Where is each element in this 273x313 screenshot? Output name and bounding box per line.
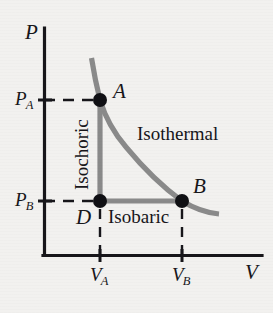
x-tick-va-base: V bbox=[90, 264, 102, 285]
process-label-isobaric: Isobaric bbox=[108, 207, 169, 226]
point-marker-d bbox=[93, 194, 107, 208]
x-tick-vb-subscript: B bbox=[183, 274, 191, 288]
point-marker-a bbox=[93, 93, 107, 107]
point-label-d: D bbox=[76, 207, 91, 228]
point-label-b: B bbox=[193, 176, 206, 197]
x-tick-va-subscript: A bbox=[101, 274, 109, 288]
y-tick-pa-subscript: A bbox=[26, 98, 34, 112]
y-axis-label: P bbox=[25, 22, 38, 43]
state-points bbox=[93, 93, 189, 208]
process-label-isochoric: Isochoric bbox=[72, 119, 91, 190]
x-tick-label-vb: VB bbox=[172, 265, 191, 284]
x-axis-label: V bbox=[245, 262, 258, 283]
y-tick-label-pb: PB bbox=[15, 190, 34, 209]
y-tick-pa-base: P bbox=[15, 88, 27, 109]
point-label-a: A bbox=[113, 81, 126, 102]
pv-diagram-figure: P V PA PB VA VB A B D Isothermal Isochor… bbox=[0, 0, 273, 313]
x-tick-label-va: VA bbox=[90, 265, 109, 284]
y-tick-pb-base: P bbox=[15, 189, 27, 210]
plot-canvas bbox=[0, 0, 273, 313]
x-tick-vb-base: V bbox=[172, 264, 184, 285]
y-tick-label-pa: PA bbox=[15, 89, 34, 108]
y-tick-pb-subscript: B bbox=[26, 199, 34, 213]
point-marker-b bbox=[175, 194, 189, 208]
process-label-isothermal: Isothermal bbox=[137, 124, 218, 143]
